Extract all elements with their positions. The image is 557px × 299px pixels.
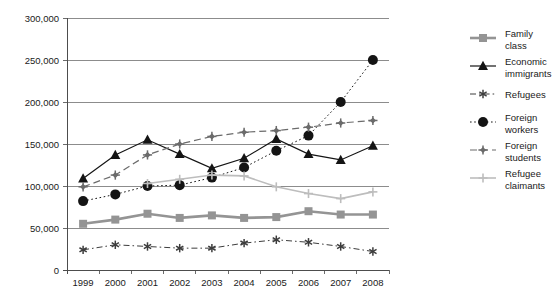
legend-label-foreign-students-line1: Foreign (505, 140, 537, 151)
chart-canvas: 050,000100,000150,000200,000250,000300,0… (0, 0, 557, 299)
y-axis-label-200000: 200,000 (25, 97, 59, 108)
legend-label-family-class-line2: class (505, 40, 527, 51)
x-axis-label-2001: 2001 (137, 277, 158, 288)
legend-label-refugee-claimants-line1: Refugee (505, 168, 541, 179)
legend-marker-foreign-workers (478, 117, 488, 127)
legend-label-economic-immigrants-line2: immigrants (505, 68, 552, 79)
legend-label-foreign-workers-line2: workers (504, 124, 539, 135)
datapoint-family-class-2005 (272, 213, 280, 221)
immigration-line-chart: 050,000100,000150,000200,000250,000300,0… (0, 0, 557, 299)
datapoint-family-class-2007 (337, 211, 345, 219)
datapoint-family-class-2001 (144, 210, 152, 218)
datapoint-foreign-workers-2000 (110, 189, 120, 199)
datapoint-family-class-1999 (79, 220, 87, 228)
y-axis-label-150000: 150,000 (25, 139, 59, 150)
x-axis-label-2003: 2003 (201, 277, 222, 288)
y-axis-label-50000: 50,000 (30, 223, 59, 234)
legend-label-foreign-workers-line1: Foreign (505, 112, 537, 123)
x-axis-label-2005: 2005 (266, 277, 287, 288)
datapoint-family-class-2003 (208, 211, 216, 219)
datapoint-family-class-2002 (176, 214, 184, 222)
legend-label-economic-immigrants-line1: Economic (505, 56, 547, 67)
legend-label-refugees-line1: Refugees (505, 89, 546, 100)
datapoint-foreign-workers-2005 (271, 146, 281, 156)
x-axis-label-2000: 2000 (105, 277, 126, 288)
datapoint-foreign-workers-2007 (336, 97, 346, 107)
datapoint-family-class-2008 (369, 211, 377, 219)
datapoint-foreign-workers-1999 (78, 196, 88, 206)
datapoint-foreign-workers-2008 (368, 55, 378, 65)
datapoint-family-class-2004 (240, 214, 248, 222)
datapoint-family-class-2000 (111, 216, 119, 224)
y-axis-label-0: 0 (54, 265, 59, 276)
y-axis-label-100000: 100,000 (25, 181, 59, 192)
x-axis-label-2002: 2002 (169, 277, 190, 288)
legend-label-refugee-claimants-line2: claimants (505, 180, 545, 191)
x-axis-label-1999: 1999 (73, 277, 94, 288)
y-axis-label-250000: 250,000 (25, 55, 59, 66)
datapoint-foreign-workers-2006 (304, 131, 314, 141)
legend-label-family-class-line1: Family (505, 28, 533, 39)
legend-label-foreign-students-line2: students (505, 152, 541, 163)
legend-marker-family-class (479, 34, 487, 42)
datapoint-family-class-2006 (305, 207, 313, 215)
x-axis-label-2004: 2004 (234, 277, 255, 288)
x-axis-label-2007: 2007 (330, 277, 351, 288)
x-axis-label-2008: 2008 (362, 277, 383, 288)
datapoint-foreign-workers-2004 (239, 163, 249, 173)
y-axis-label-300000: 300,000 (25, 13, 59, 24)
x-axis-label-2006: 2006 (298, 277, 319, 288)
